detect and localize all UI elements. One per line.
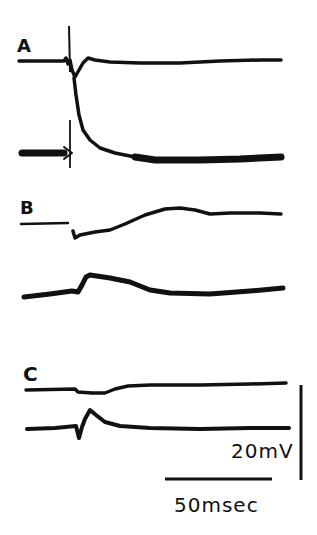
panel-a-label: A xyxy=(17,35,31,56)
scale-bars: 20mV 50msec xyxy=(165,385,301,517)
electrophysiology-figure: A B C 20mV 50msec xyxy=(0,0,317,535)
trace-c-lower xyxy=(27,410,289,438)
trace-b-upper-baseline xyxy=(21,223,68,224)
trace-b-upper xyxy=(73,208,281,238)
trace-b-lower xyxy=(24,275,283,297)
panel-a: A xyxy=(17,26,281,168)
panel-b-label: B xyxy=(20,197,34,218)
trace-c-upper xyxy=(26,383,286,393)
panel-c: C xyxy=(23,362,289,438)
trace-a-upper xyxy=(19,58,281,77)
trace-a-lower-decay xyxy=(74,78,155,160)
panel-c-label: C xyxy=(23,362,38,386)
panel-b: B xyxy=(20,197,283,297)
trace-a-lower-tail xyxy=(135,157,281,160)
voltage-scale-label: 20mV xyxy=(231,439,294,463)
time-scale-label: 50msec xyxy=(174,493,259,517)
